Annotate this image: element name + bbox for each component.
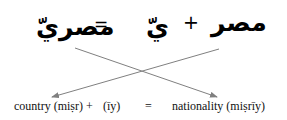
english-equals-sign: = xyxy=(145,100,152,112)
english-suffix-label: (īy) xyxy=(103,100,120,112)
english-nationality-label: nationality (miṣrīy) xyxy=(172,100,265,112)
english-country-label: country (miṣr) + xyxy=(14,100,93,112)
arrow-to-country xyxy=(52,49,219,97)
